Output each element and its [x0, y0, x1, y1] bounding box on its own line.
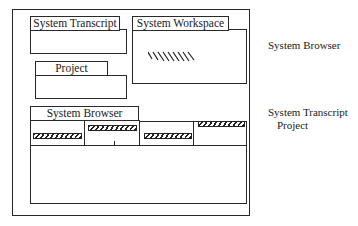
- browser-pane-2[interactable]: [84, 120, 140, 146]
- workspace-window-title[interactable]: System Workspace: [132, 16, 229, 31]
- project-window-body: [35, 75, 127, 99]
- project-window-title[interactable]: Project: [35, 61, 108, 76]
- side-label-browser: System Browser: [268, 39, 340, 52]
- selection-bar-1[interactable]: [33, 133, 82, 139]
- selection-bar-4[interactable]: [198, 121, 245, 127]
- side-label-project: Project: [277, 119, 308, 132]
- selection-bar-3[interactable]: [144, 133, 192, 139]
- transcript-window-body: [30, 29, 127, 54]
- side-label-transcript: System Transcript: [268, 106, 348, 119]
- browser-window-title[interactable]: System Browser: [30, 106, 139, 121]
- transcript-window-title[interactable]: System Transcript: [30, 16, 120, 31]
- selection-bar-2[interactable]: [88, 125, 137, 131]
- browser-code-pane[interactable]: [30, 145, 247, 204]
- workspace-text-squiggle-icon: [148, 50, 198, 66]
